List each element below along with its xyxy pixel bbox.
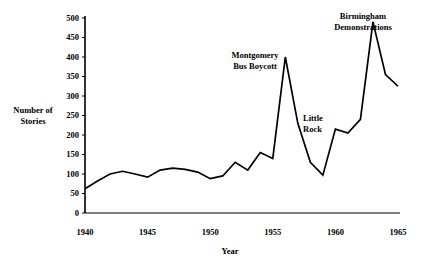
y-axis-title: Number of Stories [2, 105, 64, 126]
x-axis-title: Year [210, 246, 250, 257]
y-tick-label: 50 [52, 189, 79, 198]
y-axis-title-line1: Number of [2, 105, 64, 116]
annotation-little-rock: Little Rock [303, 113, 343, 135]
annotation-montgomery-line1: Montgomery [216, 50, 294, 61]
y-axis-title-line2: Stories [2, 116, 64, 127]
data-series-line [85, 22, 398, 189]
annotation-birmingham-line1: Birmingham [318, 11, 408, 22]
y-tick-label: 450 [52, 33, 79, 42]
x-tick-label: 1940 [68, 228, 102, 237]
y-tick-label: 0 [52, 209, 79, 218]
annotation-birmingham-demonstrations: Birmingham Demonstrations [318, 11, 408, 33]
y-tick-label: 500 [52, 14, 79, 23]
annotation-montgomery-bus-boycott: Montgomery Bus Boycott [216, 50, 294, 72]
y-tick-label: 200 [52, 131, 79, 140]
x-tick-label: 1945 [131, 228, 165, 237]
y-tick-label: 300 [52, 92, 79, 101]
y-tick-label: 150 [52, 150, 79, 159]
annotation-montgomery-line2: Bus Boycott [216, 61, 294, 72]
annotation-little-rock-line2: Rock [303, 124, 343, 135]
y-tick-label: 100 [52, 170, 79, 179]
x-tick-label: 1950 [193, 228, 227, 237]
annotation-birmingham-line2: Demonstrations [318, 22, 408, 33]
x-tick-label: 1955 [256, 228, 290, 237]
y-tick-label: 400 [52, 53, 79, 62]
x-tick-label: 1965 [381, 228, 415, 237]
chart-container: 050100150200250300350400450500 194019451… [0, 0, 424, 266]
x-tick-label: 1960 [318, 228, 352, 237]
annotation-little-rock-line1: Little [303, 113, 343, 124]
y-tick-label: 350 [52, 72, 79, 81]
